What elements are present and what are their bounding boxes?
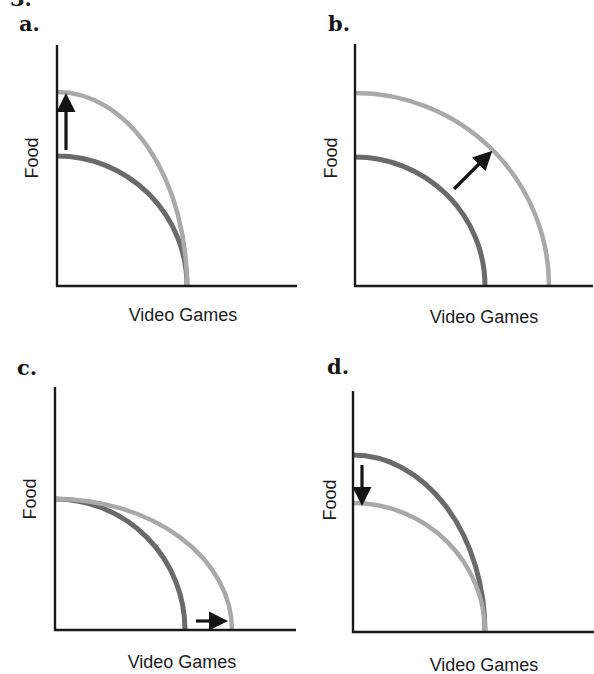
panel-b-x-axis-label: Video Games xyxy=(430,307,539,328)
panel-d-shifted-ppf-curve xyxy=(353,503,485,632)
ppf-plots-canvas xyxy=(0,0,594,674)
panel-c-letter: c. xyxy=(17,357,37,378)
panel-b-shift-arrow-icon xyxy=(454,157,486,189)
panel-c-original-ppf-curve xyxy=(55,499,185,630)
panel-a-letter: a. xyxy=(19,13,40,34)
panel-c-x-axis-label: Video Games xyxy=(128,652,237,673)
panel-b-shifted-ppf-curve xyxy=(355,93,549,286)
panel-d-y-axis-label: Food xyxy=(320,479,341,520)
panel-a-original-ppf-curve xyxy=(57,156,187,286)
panel-d-letter: d. xyxy=(327,356,349,377)
panel-c-y-axis-label: Food xyxy=(20,478,41,519)
panel-d-x-axis-label: Video Games xyxy=(430,655,539,674)
panel-d-original-ppf-curve xyxy=(353,455,485,632)
panel-a-y-axis-label: Food xyxy=(22,137,43,178)
panel-a-x-axis-label: Video Games xyxy=(129,305,238,326)
ppf-figure: 3. a. Food Video Games b. Food Video Gam… xyxy=(0,0,594,674)
panel-b-y-axis-label: Food xyxy=(321,137,342,178)
panel-a-shifted-ppf-curve xyxy=(57,92,187,286)
panel-b-letter: b. xyxy=(328,13,350,34)
panel-c-shifted-ppf-curve xyxy=(55,499,232,630)
